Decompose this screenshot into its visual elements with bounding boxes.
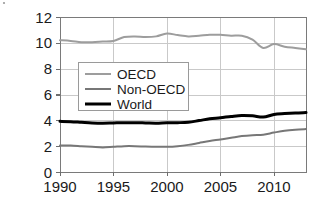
line-chart: 024681012 19901995200020052010 G/P(t CO2… [0, 0, 322, 205]
x-tick-label: 1990 [43, 178, 76, 195]
y-tick-label: 2 [44, 138, 52, 155]
scan-artifact-speck [3, 2, 5, 4]
y-tick-label: 10 [35, 34, 52, 51]
legend-label-oecd: OECD [117, 67, 156, 82]
series-line-world [60, 113, 306, 124]
x-tick-label: 2000 [150, 178, 183, 195]
y-axis-tick-labels: 024681012 [35, 9, 52, 181]
series-line-oecd [60, 34, 306, 50]
x-axis-tick-labels: 19901995200020052010 [43, 178, 290, 195]
x-tick-label: 2005 [204, 178, 237, 195]
y-tick-label: 8 [44, 60, 52, 77]
chart-legend: OECDNon-OECDWorld [79, 63, 189, 113]
y-tick-label: 4 [44, 112, 52, 129]
chart-container: 024681012 19901995200020052010 G/P(t CO2… [0, 0, 322, 205]
y-tick-label: 12 [35, 9, 52, 26]
y-tick-label: 6 [44, 86, 52, 103]
x-tick-label: 2010 [257, 178, 290, 195]
x-tick-label: 1995 [97, 178, 130, 195]
legend-label-world: World [117, 97, 152, 112]
legend-label-non-oecd: Non-OECD [117, 82, 186, 97]
series-line-non-oecd [60, 129, 306, 147]
